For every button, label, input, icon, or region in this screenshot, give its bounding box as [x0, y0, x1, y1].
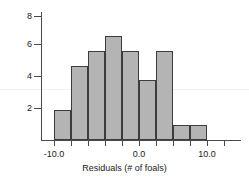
x-tick-mark-minor: [88, 141, 89, 146]
histogram-bar: [139, 80, 156, 140]
x-tick-mark-zero: [139, 141, 140, 146]
y-tick-label-8: 8: [8, 12, 32, 21]
histogram-chart: 2 4 6 8 -10.0 0.0 10.0 Residuals (# of f…: [0, 0, 249, 183]
y-tick-mark-8: [34, 16, 42, 17]
histogram-bar: [190, 125, 207, 140]
x-tick-mark-minor: [156, 141, 157, 146]
histogram-bar: [173, 125, 190, 140]
x-tick-label-pos10: 10.0: [187, 149, 227, 159]
histogram-bar: [122, 51, 139, 140]
histogram-bar: [71, 66, 88, 140]
x-tick-mark-minor: [105, 141, 106, 146]
x-tick-label-zero: 0.0: [119, 149, 159, 159]
y-tick-label-4: 4: [8, 72, 32, 81]
x-tick-mark-minor: [224, 141, 225, 146]
x-tick-mark-minor: [71, 141, 72, 146]
y-tick-mark-4: [34, 76, 42, 77]
x-axis-title: Residuals (# of foals): [0, 163, 249, 173]
y-tick-mark-2: [34, 108, 42, 109]
x-tick-mark-minor: [122, 141, 123, 146]
histogram-bar: [156, 51, 173, 140]
histogram-bar: [105, 36, 122, 140]
y-tick-label-6: 6: [8, 40, 32, 49]
histogram-bar: [54, 110, 71, 140]
y-tick-mark-6: [34, 44, 42, 45]
histogram-bar: [88, 51, 105, 140]
x-tick-mark-neg10: [54, 141, 55, 146]
x-tick-mark-minor: [190, 141, 191, 146]
x-tick-mark-pos10: [207, 141, 208, 146]
x-tick-mark-minor: [173, 141, 174, 146]
plot-area: [42, 12, 238, 140]
y-tick-label-2: 2: [8, 104, 32, 113]
x-tick-label-neg10: -10.0: [34, 149, 74, 159]
